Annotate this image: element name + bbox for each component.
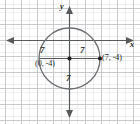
radius-label-down: 7 — [66, 74, 71, 83]
coordinate-plane-svg — [0, 0, 140, 124]
right-point-label: (7, -4) — [102, 54, 122, 62]
y-axis-label: y — [60, 3, 64, 11]
x-axis-label: x — [130, 41, 134, 49]
radius-label-left: 7 — [40, 46, 45, 55]
circle-graph-figure: 7 7 7 (0, -4) (7, -4) x y — [0, 0, 140, 124]
radius-label-right: 7 — [80, 46, 85, 55]
center-point-marker — [67, 56, 71, 60]
center-point-label: (0, -4) — [35, 60, 55, 68]
